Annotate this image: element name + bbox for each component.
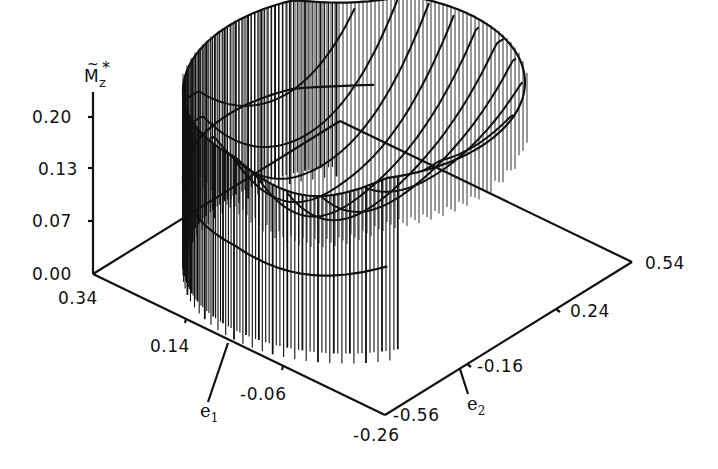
z-axis-title-tilde: ~ xyxy=(87,56,99,72)
e1-tick-label: -0.06 xyxy=(240,384,287,404)
e2-tick-label: 0.54 xyxy=(645,253,685,273)
e1-axis-title-base: e xyxy=(200,400,211,421)
e1-axis-title-sub: 1 xyxy=(211,411,219,425)
e1-tick-label: 0.34 xyxy=(58,288,98,308)
z-tick-label: 0.00 xyxy=(32,264,72,284)
e2-tick-label: -0.16 xyxy=(477,356,524,376)
e1-tick-label: 0.14 xyxy=(150,336,190,356)
e1-leader xyxy=(208,343,228,402)
surface-hatching xyxy=(183,0,527,364)
z-tick-label: 0.13 xyxy=(38,159,78,179)
e2-axis-title-base: e xyxy=(467,393,478,414)
e2-axis xyxy=(385,262,632,415)
e2-tick-label: -0.56 xyxy=(393,405,440,425)
e1-tick xyxy=(185,319,186,323)
e1-axis-title: e1 xyxy=(200,400,218,425)
z-tick-label: 0.07 xyxy=(32,211,72,231)
z-axis-title-sub: z xyxy=(99,75,106,90)
e1-axis xyxy=(93,274,385,415)
e2-axis-title: e2 xyxy=(467,393,485,418)
e2-leader xyxy=(460,369,468,394)
z-tick-label: 0.20 xyxy=(32,107,72,127)
e1-tick-label: -0.26 xyxy=(353,425,400,445)
e1-tick xyxy=(282,366,283,370)
e2-axis-title-sub: 2 xyxy=(478,404,486,418)
e2-tick-label: 0.24 xyxy=(570,301,610,321)
e2-tick xyxy=(556,309,560,312)
e2-tick xyxy=(467,364,471,367)
z-axis-title: M ~ * z xyxy=(84,66,99,86)
axes xyxy=(88,92,632,415)
